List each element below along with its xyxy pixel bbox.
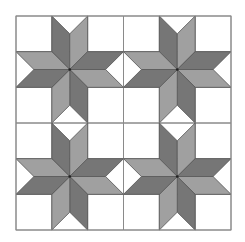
quilt-pattern xyxy=(0,0,245,242)
star-center xyxy=(68,68,71,71)
star-block xyxy=(124,123,232,230)
star-block xyxy=(124,16,232,123)
star-block xyxy=(16,16,124,123)
star-center xyxy=(176,175,179,178)
star-center xyxy=(68,175,71,178)
star-block xyxy=(16,123,124,230)
star-center xyxy=(176,68,179,71)
